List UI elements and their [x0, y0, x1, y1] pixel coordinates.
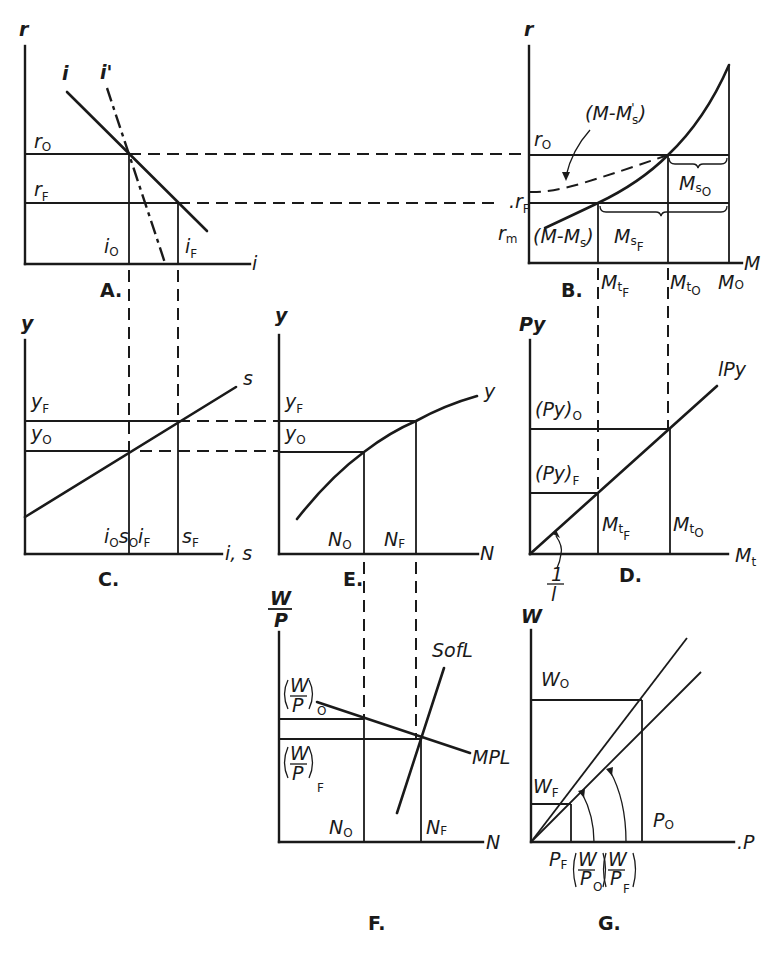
panel-d-py0-label: (Py)O	[535, 398, 582, 423]
panel-b-r0-label: rO	[534, 128, 551, 152]
panel-b-mtf-label: MtF	[601, 271, 629, 300]
panel-d-y-axis-label: Py	[519, 313, 547, 335]
panel-b-solid-curve-label: (M-Ms)	[533, 225, 594, 250]
panel-f-nf-label: NF	[426, 816, 447, 838]
panel-c-yf-label: yF	[30, 390, 49, 416]
panel-g: W .P WO WF PO PF W P O W	[521, 605, 755, 934]
panel-d-slope-numerator: 1	[551, 563, 563, 585]
panel-b-annotation-arrow	[566, 130, 590, 176]
panel-c-y-axis-label: y	[21, 312, 35, 334]
panel-b-msf-label: MsF	[614, 225, 644, 254]
panel-g-x-axis-label: .P	[737, 831, 755, 853]
panel-g-arc-wpf-arrowhead-icon	[606, 767, 613, 776]
panel-f-title: F.	[368, 912, 385, 934]
panel-a-i0-label: iO	[104, 235, 119, 259]
panel-e: y N y yF yO NO NF E.	[275, 304, 496, 590]
panel-g-title: G.	[598, 912, 621, 934]
panel-d-curve-lpy-label: lPy	[718, 358, 747, 380]
panel-e-yf-label: yF	[284, 390, 303, 416]
panel-g-w0-label: WO	[541, 668, 569, 691]
panel-f-wpf-label: W P F	[285, 742, 325, 795]
panel-f-y-axis-denominator: P	[274, 609, 288, 631]
panel-b-x-axis-label: M	[744, 252, 760, 274]
panel-d: Py Mt lPy (Py)O (Py)F MtF MtO 1 l D.	[519, 313, 756, 605]
panel-b-ms0-label: MsO	[679, 172, 711, 199]
panel-d-pyf-label: (Py)F	[535, 462, 580, 488]
panel-c-x-axis-label: i, s	[225, 542, 252, 564]
panel-b-title: B.	[561, 279, 583, 301]
svg-text:W: W	[290, 742, 310, 764]
panel-b-dashed-curve-label: (M-Ms')	[585, 101, 646, 127]
panel-f-x-axis-label: N	[486, 831, 500, 853]
panel-e-curve-y-label: y	[483, 380, 496, 402]
panel-a-curve-i	[67, 92, 207, 231]
panel-a-curve-i-prime-label: i'	[100, 61, 112, 83]
panel-d-slope-denominator: l	[551, 583, 557, 605]
svg-text:O: O	[317, 704, 326, 718]
panel-f-y-axis-numerator: W	[270, 587, 292, 609]
panel-e-title: E.	[343, 568, 363, 590]
panel-e-n0-label: NO	[328, 528, 352, 552]
panel-a-curve-i-prime	[107, 88, 165, 263]
panel-a-title: A.	[100, 279, 122, 301]
panel-g-arc-wpf	[610, 771, 626, 842]
panel-b-rm-label: rm	[498, 222, 518, 246]
panel-a-y-axis-label: r	[19, 18, 30, 40]
economic-model-diagram: r i i i' rO rF iO iF A. r M	[0, 0, 781, 954]
panel-b-brace-msf	[600, 206, 727, 216]
panel-c-title: C.	[98, 568, 119, 590]
panel-g-wp0-slope-label: W P O	[574, 848, 606, 894]
panel-f-mpl-label: MPL	[472, 746, 510, 768]
panel-g-wpf-slope-label: W P F	[604, 848, 636, 896]
panel-b-m0-label: MO	[718, 271, 744, 293]
svg-text:F: F	[623, 882, 630, 896]
panel-f: W P N SofL MPL W P O W P F	[268, 587, 510, 934]
panel-a-r0-label: rO	[34, 130, 51, 154]
panel-a-curve-i-label: i	[62, 62, 69, 84]
panel-f-curve-mpl	[317, 702, 470, 753]
panel-b-mt0-label: MtO	[670, 271, 701, 298]
svg-text:O: O	[593, 880, 602, 894]
svg-text:P: P	[292, 694, 304, 716]
panel-a: r i i i' rO rF iO iF A.	[19, 18, 258, 301]
panel-b-rf-label: .rF	[509, 190, 530, 216]
panel-d-x-axis-label: Mt	[735, 544, 756, 569]
panel-g-arc-wp0	[582, 793, 594, 842]
panel-f-n0-label: NO	[329, 816, 353, 840]
panel-c-y0-label: yO	[30, 422, 52, 447]
panel-d-mt0-label: MtO	[673, 513, 704, 540]
panel-e-nf-label: NF	[384, 528, 405, 551]
panel-b-y-axis-label: r	[524, 18, 535, 40]
svg-text:F: F	[317, 781, 324, 795]
panel-g-wf-label: WF	[533, 775, 559, 800]
panel-d-title: D.	[619, 564, 642, 586]
panel-c-sf-label: sF	[182, 525, 199, 550]
panel-g-ray-wpf	[531, 672, 701, 842]
panel-g-pf-label: PF	[549, 848, 567, 872]
panel-f-sofl-label: SofL	[432, 639, 473, 661]
svg-text:W: W	[290, 674, 310, 696]
panel-b: r M (M-Ms') rO .rF rm (M-Ms) MsO MsF MtF…	[498, 18, 760, 301]
svg-text:P: P	[292, 762, 304, 784]
panel-e-x-axis-label: N	[480, 542, 494, 564]
panel-g-y-axis-label: W	[521, 605, 543, 627]
panel-c-curve-s-label: s	[243, 367, 253, 389]
panel-d-mtf-label: MtF	[602, 513, 630, 543]
panel-a-if-label: iF	[185, 235, 197, 261]
svg-text:P: P	[580, 867, 592, 889]
panel-e-curve-y	[297, 396, 477, 519]
panel-e-y0-label: yO	[284, 422, 306, 447]
panel-a-x-axis-label: i	[252, 252, 258, 274]
panel-a-rf-label: rF	[34, 178, 49, 204]
panel-b-arrowhead-icon	[562, 172, 570, 181]
svg-text:P: P	[610, 867, 622, 889]
panel-g-p0-label: PO	[653, 809, 674, 832]
panel-f-wp0-label: W P O	[285, 674, 327, 718]
panel-e-y-axis-label: y	[275, 304, 289, 326]
panel-c-i0-s0-label: iOsOiF	[104, 525, 150, 550]
panel-b-brace-ms0	[669, 158, 727, 168]
